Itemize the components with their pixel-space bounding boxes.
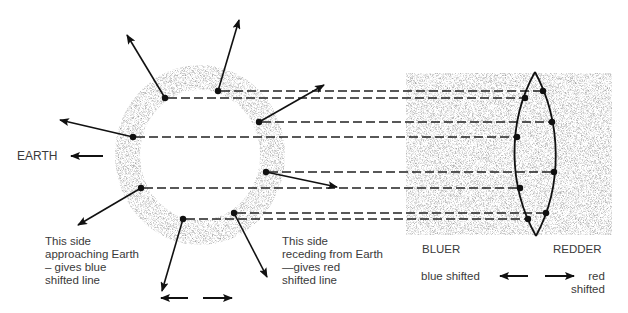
emitter-dot [256, 119, 262, 125]
lens-dot [522, 95, 528, 101]
emitter-dot [215, 88, 221, 94]
red-shifted-label: red shifted [571, 270, 605, 296]
lens-dot [540, 88, 546, 94]
caption-line: – gives blue [45, 261, 139, 274]
lens-dot [543, 210, 549, 216]
caption-line: This side [45, 235, 139, 248]
receding-caption: This side receding from Earth —gives red… [282, 235, 383, 287]
emitter-dot [138, 185, 144, 191]
spectrum-band [406, 73, 612, 235]
caption-line: This side [282, 235, 383, 248]
caption-line: shifted line [45, 274, 139, 287]
doppler-rotation-diagram: EARTH This side approaching Earth – give… [0, 0, 628, 313]
blue-shifted-label: blue shifted [421, 270, 480, 283]
emitter-dot [263, 169, 269, 175]
redder-label: REDDER [553, 243, 602, 256]
caption-line: shifted line [282, 274, 383, 287]
approaching-caption: This side approaching Earth – gives blue… [45, 235, 139, 287]
lens-dot [517, 185, 523, 191]
label-line: red [571, 270, 605, 283]
lens-dot [551, 169, 557, 175]
emitter-dot [130, 134, 136, 140]
emitter-dot [231, 210, 237, 216]
label-line: shifted [571, 283, 605, 296]
bluer-label: BLUER [422, 243, 460, 256]
lens-dot [525, 216, 531, 222]
lens-dot [514, 134, 520, 140]
earth-label: EARTH [17, 150, 57, 163]
emitter-dot [180, 216, 186, 222]
emitter-dot [162, 95, 168, 101]
caption-line: approaching Earth [45, 248, 139, 261]
caption-line: receding from Earth [282, 248, 383, 261]
caption-line: —gives red [282, 261, 383, 274]
lens-dot [549, 119, 555, 125]
